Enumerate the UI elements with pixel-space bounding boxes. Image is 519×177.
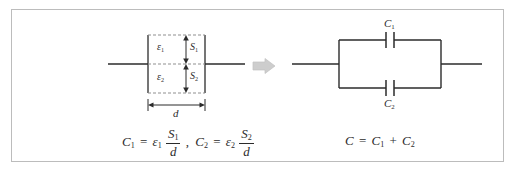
label-s-2: S2 [190, 71, 198, 82]
comma-separator: , [185, 134, 192, 149]
equation-c1-c2: C1 = ε1 S1 d , C2 = ε2 S2 d [122, 127, 255, 158]
parallel-capacitor-circuit-group [292, 32, 482, 96]
label-c-2: C2 [384, 98, 395, 111]
implies-arrow-icon [253, 59, 275, 74]
figure-drawing [0, 0, 519, 177]
label-epsilon-2: ε2 [157, 72, 164, 83]
label-s-1: S1 [190, 42, 198, 53]
equals-sign-1: = [138, 134, 149, 149]
fraction-s2-over-d: S2 d [239, 127, 254, 158]
label-c-1: C1 [384, 18, 395, 31]
s1-dimension-arrow [183, 35, 189, 64]
implies-arrow-group [253, 59, 275, 74]
equals-sign-3: = [357, 133, 368, 148]
plus-sign: + [387, 133, 398, 148]
capacitor-c1-symbol [386, 32, 394, 48]
s2-dimension-arrow [183, 64, 189, 93]
fraction-s1-over-d: S1 d [166, 127, 181, 158]
label-d: d [173, 108, 179, 119]
label-epsilon-1: ε1 [157, 42, 164, 53]
capacitor-c2-symbol [386, 80, 394, 96]
dielectric-capacitor-group [108, 35, 245, 111]
equation-c-total: C = C1 + C2 [345, 134, 415, 149]
figure-root: ε1 ε2 S1 S2 d C1 C2 C1 = ε1 S1 d , C2 = … [0, 0, 519, 177]
equals-sign-2: = [211, 134, 222, 149]
